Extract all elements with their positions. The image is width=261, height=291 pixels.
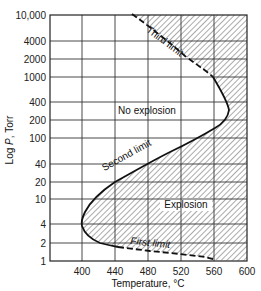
x-axis-label: Temperature, °C [112, 278, 185, 289]
svg-text:1: 1 [40, 256, 46, 267]
explosion-limits-chart: 10,000 4000 2000 1000 400 200 100 40 20 … [0, 0, 261, 291]
svg-text:40: 40 [35, 159, 47, 170]
svg-text:2: 2 [40, 238, 46, 249]
svg-text:100: 100 [29, 133, 46, 144]
svg-text:1000: 1000 [24, 72, 47, 83]
y-axis-label: Log P, Torr [4, 115, 15, 164]
svg-text:480: 480 [140, 266, 157, 277]
svg-text:200: 200 [29, 115, 46, 126]
svg-text:20: 20 [35, 177, 47, 188]
x-axis-ticks: 400 440 480 520 560 600 [74, 266, 256, 277]
svg-text:2000: 2000 [24, 54, 47, 65]
svg-text:4000: 4000 [24, 36, 47, 47]
svg-text:4: 4 [40, 219, 46, 230]
svg-text:520: 520 [173, 266, 190, 277]
no-explosion-label: No explosion [118, 105, 176, 116]
y-axis-ticks: 10,000 4000 2000 1000 400 200 100 40 20 … [15, 10, 46, 267]
svg-text:440: 440 [107, 266, 124, 277]
explosion-label: Explosion [164, 199, 207, 210]
svg-text:10: 10 [35, 194, 47, 205]
svg-text:10,000: 10,000 [15, 10, 46, 21]
svg-text:400: 400 [74, 266, 91, 277]
svg-text:600: 600 [239, 266, 256, 277]
svg-text:400: 400 [29, 97, 46, 108]
svg-text:560: 560 [206, 266, 223, 277]
